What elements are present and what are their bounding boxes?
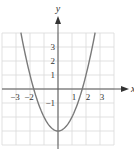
- y-tick-label: −1: [45, 98, 55, 108]
- x-tick-label: −3: [10, 92, 20, 102]
- x-tick-label: 3: [100, 92, 105, 102]
- y-tick-label: 3: [51, 42, 56, 52]
- y-tick-label: 1: [51, 70, 56, 80]
- x-tick-label: 2: [86, 92, 91, 102]
- x-tick-label: 1: [72, 92, 77, 102]
- y-axis-arrow-icon: [55, 16, 61, 24]
- y-axis-title: y: [55, 3, 61, 14]
- x-axis-title: x: [130, 83, 134, 94]
- x-tick-label: −2: [24, 92, 34, 102]
- x-axis-arrow-icon: [121, 86, 129, 92]
- parabola-chart: xy−3−2123321−1: [0, 0, 134, 155]
- y-tick-label: 2: [51, 56, 56, 66]
